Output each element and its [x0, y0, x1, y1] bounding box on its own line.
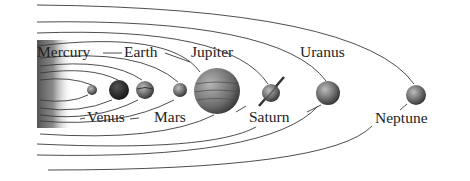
label-saturn: Saturn — [249, 109, 289, 125]
label-mercury: Mercury — [37, 44, 90, 60]
leader-lines — [80, 53, 407, 119]
planet-venus — [109, 80, 129, 100]
label-uranus: Uranus — [300, 44, 345, 60]
planet-mars — [173, 83, 187, 97]
label-earth: Earth — [124, 44, 158, 60]
label-neptune: Neptune — [375, 110, 428, 126]
label-jupiter: Jupiter — [191, 44, 233, 60]
label-venus: Venus — [87, 109, 125, 125]
planet-neptune — [406, 85, 426, 105]
planet-uranus — [316, 81, 340, 105]
label-mars: Mars — [154, 109, 186, 125]
planet-earth — [136, 81, 154, 99]
planet-saturn — [259, 77, 284, 106]
solar-system-diagram — [0, 0, 470, 181]
planet-jupiter — [194, 68, 240, 114]
planet-mercury — [87, 85, 97, 95]
